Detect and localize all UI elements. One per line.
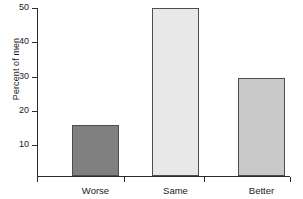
bar-worse: [72, 125, 119, 176]
x-tick-label: Same: [141, 186, 211, 196]
y-tick-mark: [32, 77, 37, 78]
y-tick-label: 10: [5, 140, 29, 149]
bar-chart: Percent of men 5040302010 WorseSameBette…: [0, 0, 303, 199]
bar-same: [152, 8, 199, 176]
x-tick-label: Worse: [61, 186, 131, 196]
x-tick-mark: [204, 177, 205, 182]
y-tick-label: 50: [5, 3, 29, 12]
y-tick-mark: [32, 111, 37, 112]
x-tick-mark: [124, 177, 125, 182]
x-tick-mark: [37, 177, 38, 182]
x-tick-mark: [290, 177, 291, 182]
y-tick-label: 40: [5, 37, 29, 46]
x-tick-label: Better: [227, 186, 297, 196]
y-tick-mark: [32, 8, 37, 9]
y-axis-line: [37, 8, 38, 177]
y-tick-label: 20: [5, 106, 29, 115]
x-axis-line: [37, 176, 290, 177]
y-tick-mark: [32, 145, 37, 146]
y-tick-mark: [32, 42, 37, 43]
bar-better: [238, 78, 285, 176]
y-tick-label: 30: [5, 72, 29, 81]
